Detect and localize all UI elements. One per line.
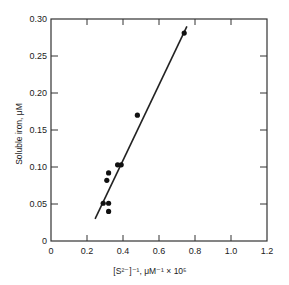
x-tick-label: 0.8 [189, 246, 202, 256]
x-axis-label: [S²⁻]⁻¹, μM⁻¹ × 10⁵ [113, 266, 186, 276]
data-point [106, 209, 111, 214]
y-tick-label: 0.10 [29, 162, 47, 172]
data-point [101, 201, 106, 206]
y-tick-label: 0.20 [29, 88, 47, 98]
fit-line [95, 26, 187, 218]
regression-line [95, 26, 187, 218]
x-tick-label: 1.0 [225, 246, 238, 256]
y-axis-label: Soluble iron, μM [14, 103, 24, 165]
x-tick-label: 0.6 [153, 246, 166, 256]
x-axis-ticks: 00.20.40.60.81.01.2 [48, 19, 273, 256]
data-point [119, 162, 124, 167]
y-tick-label: 0.15 [29, 125, 47, 135]
x-tick-label: 1.2 [261, 246, 274, 256]
data-point [106, 170, 111, 175]
x-tick-label: 0.4 [117, 246, 130, 256]
data-points [101, 30, 187, 214]
plot-border [51, 19, 267, 241]
plot-frame [51, 19, 267, 241]
x-tick-label: 0 [48, 246, 53, 256]
data-point [106, 201, 111, 206]
y-axis-ticks: 00.050.100.150.200.250.30 [29, 14, 267, 246]
y-tick-label: 0.30 [29, 14, 47, 24]
y-tick-label: 0 [42, 236, 47, 246]
data-point [135, 113, 140, 118]
data-point [104, 178, 109, 183]
scatter-chart: 00.20.40.60.81.01.2 00.050.100.150.200.2… [0, 0, 289, 285]
y-tick-label: 0.25 [29, 51, 47, 61]
data-point [182, 30, 187, 35]
x-tick-label: 0.2 [81, 246, 94, 256]
y-tick-label: 0.05 [29, 199, 47, 209]
